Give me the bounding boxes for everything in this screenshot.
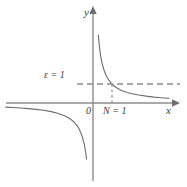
y-axis-label: y [84, 7, 89, 18]
y-axis-arrow-icon [89, 6, 96, 14]
hyperbola-limit-figure: y x 0 ε = 1 N = 1 [0, 0, 187, 187]
epsilon-value-label: ε = 1 [44, 70, 65, 80]
plot-canvas [0, 0, 187, 187]
x-axis-label: x [166, 105, 171, 116]
hyperbola-branch-first-quadrant [98, 35, 169, 98]
origin-label: 0 [86, 106, 91, 116]
n-value-label: N = 1 [103, 106, 126, 116]
hyperbola-branch-third-quadrant [6, 107, 87, 159]
x-axis-arrow-icon [172, 99, 180, 106]
